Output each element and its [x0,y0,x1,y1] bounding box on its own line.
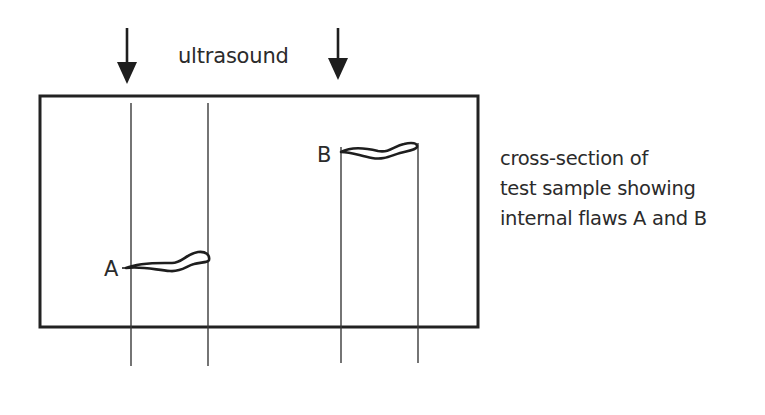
flaw-a-shape [126,252,209,271]
caption-line: cross-section of [500,144,707,174]
down-arrow-icon [117,28,137,84]
caption-line: internal flaws A and B [500,204,707,234]
flaw-a-label: A [104,257,118,281]
caption-line: test sample showing [500,174,707,204]
diagram-caption: cross-section of test sample showing int… [500,144,707,234]
ultrasound-label: ultrasound [178,44,289,68]
flaw-b-shape [341,143,417,159]
down-arrow-icon [328,28,348,80]
flaw-b-label: B [317,143,331,167]
test-sample-cross-section [40,96,478,327]
